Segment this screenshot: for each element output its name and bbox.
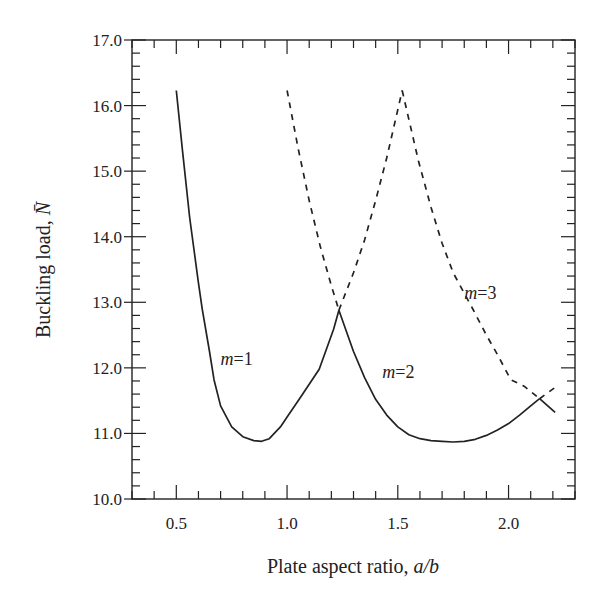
- curve-annotations: m=1m=2m=3: [221, 283, 497, 382]
- y-axis-label: Buckling load, N̄: [32, 200, 55, 338]
- y-tick-label: 16.0: [92, 97, 122, 116]
- curve-label: m=3: [464, 283, 496, 303]
- series-m2-solid: [339, 310, 540, 442]
- series-m2-solid: [540, 399, 556, 413]
- series-m1-solid: [176, 91, 339, 442]
- x-tick-label: 2.0: [498, 514, 519, 533]
- tick-labels: 0.51.01.52.010.011.012.013.014.015.016.0…: [92, 31, 519, 533]
- buckling-chart: 0.51.01.52.010.011.012.013.014.015.016.0…: [0, 0, 614, 611]
- y-tick-label: 17.0: [92, 31, 122, 50]
- y-tick-label: 15.0: [92, 162, 122, 181]
- series-m3-dashed: [540, 388, 556, 399]
- x-tick-label: 1.0: [276, 514, 297, 533]
- series-m3-dashed: [402, 91, 539, 399]
- y-tick-label: 11.0: [93, 424, 122, 443]
- series-m2-dashed: [287, 91, 339, 311]
- y-tick-label: 13.0: [92, 293, 122, 312]
- plot-border: [132, 40, 575, 499]
- curve-label: m=2: [382, 362, 414, 382]
- series-m2-dashed: [339, 91, 402, 311]
- axis-ticks: [124, 40, 575, 499]
- x-tick-label: 1.5: [387, 514, 408, 533]
- y-tick-label: 14.0: [92, 228, 122, 247]
- y-tick-label: 12.0: [92, 359, 122, 378]
- y-tick-label: 10.0: [92, 490, 122, 509]
- series-lines: [176, 91, 555, 443]
- x-axis-label: Plate aspect ratio, a/b: [267, 555, 439, 578]
- x-tick-label: 0.5: [166, 514, 187, 533]
- plot-frame: [132, 40, 575, 499]
- curve-label: m=1: [221, 349, 253, 369]
